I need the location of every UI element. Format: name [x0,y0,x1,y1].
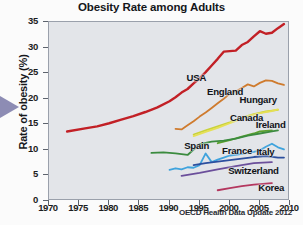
y-tick-label: 30 [16,41,38,52]
y-tick-label: 5 [16,168,38,179]
series-label-italy: Italy [256,146,274,157]
y-tick-label: 10 [16,143,38,154]
y-tick-label: 15 [16,117,38,128]
series-label-england: England [207,86,243,97]
series-label-korea: Korea [258,182,284,193]
y-tick-label: 35 [16,15,38,26]
series-label-france: France [222,145,252,156]
y-tick-label: 25 [16,66,38,77]
series-label-usa: USA [187,72,207,83]
series-label-ireland: Ireland [256,119,286,130]
chart-title: Obesity Rate among Adults [0,1,303,13]
source-caption: OECD Health Data Update 2012 [0,208,292,217]
series-label-switzerland: Switzerland [228,165,279,176]
y-tick-label: 20 [16,92,38,103]
series-label-spain: Spain [184,140,209,151]
chart-page: Obesity Rate among Adults Rate of obesit… [0,0,303,225]
series-label-hungary: Hungary [240,94,277,105]
